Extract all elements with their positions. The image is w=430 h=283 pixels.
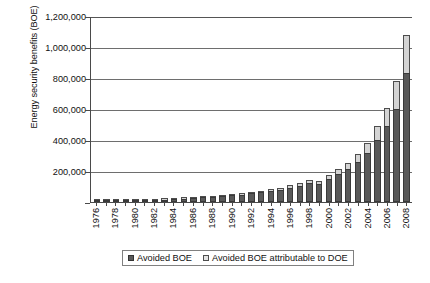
bar-group	[285, 17, 295, 202]
x-axis-tick-mark	[348, 203, 349, 206]
bar-segment-avoided-boe	[306, 183, 312, 202]
bar-group	[392, 17, 402, 202]
bar-stack	[132, 199, 138, 202]
x-axis-slot: 1990	[227, 206, 237, 248]
x-axis-slot: 1980	[130, 206, 140, 248]
x-axis-slot: 2002	[343, 206, 353, 248]
bar-stack	[384, 108, 390, 202]
bar-segment-avoided-boe	[355, 162, 361, 202]
x-axis-slot	[178, 206, 188, 248]
bar-stack	[326, 175, 332, 202]
bar-segment-doe	[384, 108, 390, 126]
x-axis-tick-mark	[261, 203, 262, 206]
x-axis-tick-mark	[271, 203, 272, 206]
legend-item[interactable]: Avoided BOE attributable to DOE	[203, 253, 348, 263]
x-axis-tick-mark	[406, 203, 407, 206]
bar-stack	[94, 199, 100, 202]
x-axis-tick-mark	[222, 203, 223, 206]
y-axis-tick-label: 400,000	[16, 136, 86, 146]
x-axis-slot	[198, 206, 208, 248]
x-axis-tick-mark	[125, 203, 126, 206]
bar-group	[324, 17, 334, 202]
legend-swatch-icon	[203, 255, 209, 261]
bar-segment-avoided-boe	[219, 196, 225, 202]
x-axis-slot: 1982	[149, 206, 159, 248]
x-axis-slot: 1994	[266, 206, 276, 248]
x-axis-tick-mark	[135, 203, 136, 206]
bar-segment-avoided-boe	[316, 184, 322, 202]
x-axis-slot: 1984	[169, 206, 179, 248]
x-axis-slot: 1992	[246, 206, 256, 248]
bar-stack	[210, 196, 216, 202]
bar-segment-avoided-boe	[393, 109, 399, 202]
bar-segment-avoided-boe	[161, 200, 167, 202]
bar-stack	[248, 192, 254, 202]
bar-group	[92, 17, 102, 202]
bar-group	[160, 17, 170, 202]
x-axis-slot: 2004	[363, 206, 373, 248]
bar-stack	[123, 199, 129, 202]
bar-stack	[190, 197, 196, 202]
x-axis-slot: 1996	[285, 206, 295, 248]
x-axis-tick-label: 1992	[246, 208, 256, 228]
x-axis-tick-label: 1978	[110, 208, 120, 228]
bar-stack	[297, 183, 303, 202]
x-axis-tick-mark	[173, 203, 174, 206]
y-axis-tick-label: 1,000,000	[16, 43, 86, 53]
bar-stack	[306, 180, 312, 202]
y-axis-tick-label: 600,000	[16, 105, 86, 115]
bar-group	[402, 17, 412, 202]
bar-segment-doe	[374, 126, 380, 140]
x-axis-slot	[275, 206, 285, 248]
bar-segment-avoided-boe	[239, 195, 245, 202]
x-axis-slot: 1986	[188, 206, 198, 248]
bar-group	[179, 17, 189, 202]
bar-stack	[345, 163, 351, 203]
bar-stack	[229, 194, 235, 202]
x-axis-slot: 1976	[91, 206, 101, 248]
x-axis-slot: 2006	[382, 206, 392, 248]
x-axis-tick-mark	[368, 203, 369, 206]
chart-legend: Avoided BOEAvoided BOE attributable to D…	[122, 250, 354, 266]
bar-group	[218, 17, 228, 202]
x-axis-tick-mark	[387, 203, 388, 206]
x-axis-tick-label: 1980	[130, 208, 140, 228]
y-axis-tick-mark	[85, 203, 90, 204]
bar-stack	[258, 191, 264, 202]
bar-segment-avoided-boe	[210, 197, 216, 202]
bar-stack	[364, 143, 370, 202]
bar-segment-avoided-boe	[345, 169, 351, 202]
x-axis-tick-mark	[96, 203, 97, 206]
x-axis-tick-mark	[280, 203, 281, 206]
bar-stack	[142, 199, 148, 202]
bar-stack	[239, 193, 245, 202]
x-axis-tick-label: 1988	[207, 208, 217, 228]
bar-stack	[171, 198, 177, 202]
bar-stack	[181, 197, 187, 202]
x-axis-tick-mark	[203, 203, 204, 206]
y-axis-tick-label: 200,000	[16, 167, 86, 177]
bar-segment-avoided-boe	[268, 191, 274, 202]
bar-group	[227, 17, 237, 202]
x-axis-tick-label: 2008	[401, 208, 411, 228]
bar-segment-doe	[403, 35, 409, 73]
x-axis-slot	[295, 206, 305, 248]
x-axis-slot	[314, 206, 324, 248]
bar-segment-avoided-boe	[200, 197, 206, 202]
bar-group	[353, 17, 363, 202]
bar-segment-avoided-boe	[403, 73, 409, 202]
x-axis-tick-label: 1994	[266, 208, 276, 228]
x-axis-tick-mark	[144, 203, 145, 206]
x-axis-tick-label: 2000	[324, 208, 334, 228]
bar-stack	[103, 199, 109, 202]
legend-item[interactable]: Avoided BOE	[128, 253, 192, 263]
bar-group	[363, 17, 373, 202]
bar-group	[121, 17, 131, 202]
x-axis-slot	[256, 206, 266, 248]
bar-segment-avoided-boe	[94, 200, 100, 202]
x-axis-tick-mark	[329, 203, 330, 206]
bar-segment-avoided-boe	[142, 200, 148, 202]
x-axis-tick-mark	[183, 203, 184, 206]
bar-segment-avoided-boe	[103, 200, 109, 202]
bar-stack	[335, 169, 341, 202]
